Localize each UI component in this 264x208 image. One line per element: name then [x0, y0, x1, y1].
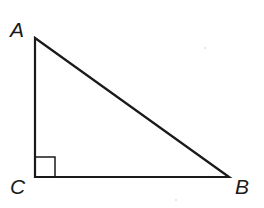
triangle-diagram: A B C: [0, 0, 264, 208]
stray-mark: [204, 47, 205, 48]
stray-mark: [175, 199, 176, 200]
vertex-label-a: A: [8, 18, 24, 41]
vertex-label-b: B: [235, 175, 249, 198]
right-angle-marker: [35, 157, 55, 177]
triangle-abc: [35, 38, 229, 177]
vertex-label-c: C: [10, 175, 26, 198]
